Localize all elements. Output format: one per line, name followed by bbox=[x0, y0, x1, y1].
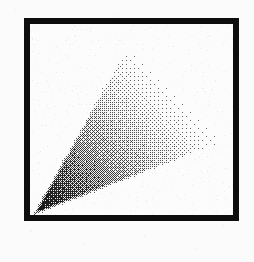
image-border bbox=[24, 18, 239, 221]
frame-outline bbox=[24, 18, 239, 221]
figure-root: Gouraud shaded triangle bbox=[0, 0, 254, 262]
